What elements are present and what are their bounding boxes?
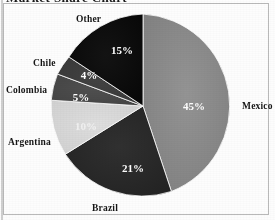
slice-value-brazil: 21% — [122, 162, 144, 174]
slice-value-chile: 4% — [81, 69, 98, 81]
slice-value-argentina: 10% — [75, 120, 97, 132]
category-label-argentina: Argentina — [8, 137, 51, 147]
category-label-colombia: Colombia — [6, 85, 47, 95]
category-label-other: Other — [76, 14, 101, 24]
category-label-brazil: Brazil — [92, 203, 118, 213]
pie-chart: 45% 21% 10% 5% 4% 15% — [0, 0, 275, 220]
slice-value-other: 15% — [111, 44, 133, 56]
slice-value-colombia: 5% — [73, 91, 90, 103]
category-label-mexico: Mexico — [242, 101, 273, 111]
pie-chart-figure: Market Share Chart — [0, 0, 275, 220]
slice-value-mexico: 45% — [183, 100, 205, 112]
category-label-chile: Chile — [33, 58, 56, 68]
